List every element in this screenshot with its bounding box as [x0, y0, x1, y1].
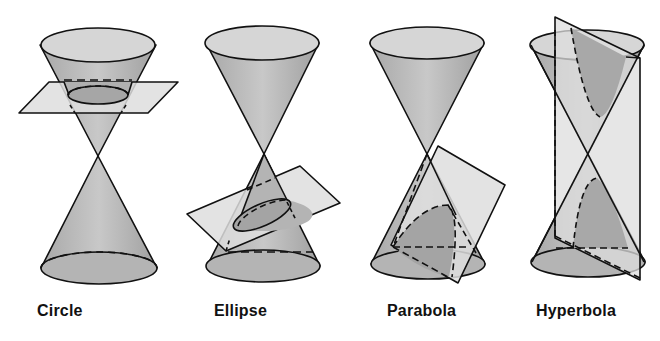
lower-base — [206, 250, 320, 282]
hyperbola-figure — [530, 17, 645, 280]
label-hyperbola: Hyperbola — [536, 302, 616, 320]
lower-base — [41, 252, 157, 284]
upper-rim — [41, 28, 155, 62]
ellipse-figure — [187, 26, 340, 282]
upper-rim — [370, 27, 484, 59]
parabola-figure — [370, 27, 505, 283]
label-ellipse: Ellipse — [214, 302, 267, 320]
circle-figure — [19, 28, 178, 284]
upper-rim — [205, 26, 319, 60]
conic-sections-diagram — [0, 0, 660, 341]
label-parabola: Parabola — [387, 302, 456, 320]
label-circle: Circle — [37, 302, 83, 320]
